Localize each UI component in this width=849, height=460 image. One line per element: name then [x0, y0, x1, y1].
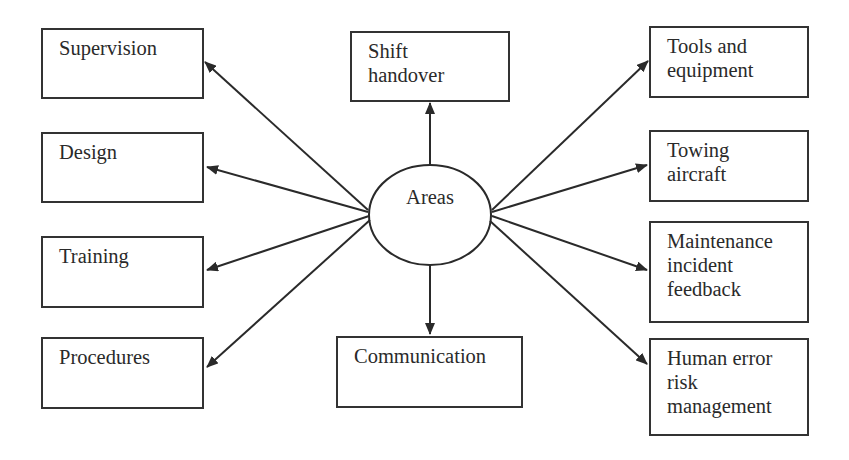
node-label: Procedures [59, 345, 202, 369]
node-supervision: Supervision [41, 28, 204, 99]
node-label-line-3: feedback [667, 277, 807, 301]
node-label-line-3: management [667, 394, 807, 418]
node-label-line-1: Tools and [667, 34, 807, 58]
node-label: Training [59, 244, 202, 268]
node-label: Design [59, 140, 202, 164]
node-communication: Communication [336, 336, 523, 408]
node-label: Supervision [59, 36, 202, 60]
node-label-line-2: risk [667, 370, 807, 394]
node-label-line-2: equipment [667, 58, 807, 82]
node-label-line-2: aircraft [667, 162, 807, 186]
center-ellipse [369, 165, 491, 265]
node-label-line-1: Shift [368, 39, 508, 63]
node-towing-aircraft: Towing aircraft [649, 130, 809, 202]
arrow-to-design [207, 167, 368, 212]
node-maintenance-incident-feedback: Maintenance incident feedback [649, 221, 809, 323]
node-label-line-1: Human error [667, 346, 807, 370]
node-design: Design [41, 132, 204, 203]
center-label-areas: Areas [370, 185, 490, 209]
node-shift-handover: Shift handover [350, 31, 510, 102]
node-human-error-risk-management: Human error risk management [649, 338, 809, 436]
arrow-to-supervision [205, 62, 368, 210]
node-label: Communication [354, 344, 521, 368]
node-label-line-2: incident [667, 253, 807, 277]
node-training: Training [41, 236, 204, 308]
node-label-line-1: Towing [667, 138, 807, 162]
node-label-line-1: Maintenance [667, 229, 807, 253]
node-tools-and-equipment: Tools and equipment [649, 26, 809, 98]
node-label-line-2: handover [368, 63, 508, 87]
node-procedures: Procedures [41, 337, 204, 409]
